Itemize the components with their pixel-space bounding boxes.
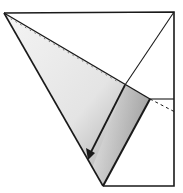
dashed-valley-fold-line <box>150 99 175 112</box>
origami-diagram <box>0 0 183 193</box>
shaded-folded-flap <box>4 13 150 186</box>
